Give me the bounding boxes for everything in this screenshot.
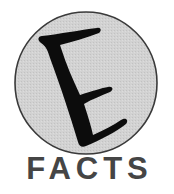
e-facts-logo: FACTS bbox=[0, 0, 174, 194]
wordmark-text: FACTS bbox=[0, 152, 174, 186]
